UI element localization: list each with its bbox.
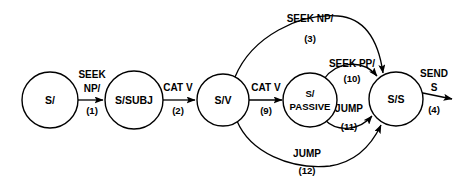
edge-label-10: SEEK PP/ bbox=[329, 58, 375, 69]
state-label-s-passive-line1: S/ bbox=[305, 88, 314, 99]
transition-seek-pp-10: SEEK PP/ (10) bbox=[324, 58, 377, 84]
transition-cat-v-9: CAT V (9) bbox=[249, 82, 282, 116]
state-node-s-s[interactable]: S/S bbox=[369, 72, 423, 126]
edge-label-9: CAT V bbox=[251, 82, 281, 93]
transition-cat-v-2: CAT V (2) bbox=[163, 82, 195, 116]
state-label-s-v: S/V bbox=[215, 94, 232, 106]
edge-label-1-line2: NP/ bbox=[84, 83, 101, 94]
edge-arc-12 bbox=[237, 121, 381, 167]
state-node-s-passive[interactable]: S/ PASSIVE bbox=[283, 73, 337, 127]
edge-number-11: (11) bbox=[341, 121, 358, 132]
edge-number-1: (1) bbox=[86, 105, 98, 116]
state-label-s-subj: S/SUBJ bbox=[115, 94, 153, 106]
edge-number-2: (2) bbox=[172, 105, 184, 116]
atn-diagram-canvas: SEEK NP/ (1) CAT V (2) CAT V (9) SEEK NP… bbox=[0, 0, 458, 187]
edge-number-10: (10) bbox=[343, 73, 360, 84]
edge-number-3: (3) bbox=[304, 33, 316, 44]
transition-jump-12: JUMP (12) bbox=[237, 121, 381, 176]
edge-number-9: (9) bbox=[260, 105, 272, 116]
edge-label-12: JUMP bbox=[293, 148, 321, 159]
state-node-s-v[interactable]: S/V bbox=[197, 74, 249, 126]
edge-label-4-line1: SEND bbox=[420, 68, 448, 79]
edge-label-3: SEEK NP/ bbox=[287, 13, 334, 24]
edge-number-4: (4) bbox=[428, 104, 440, 115]
state-label-s-start: S/ bbox=[45, 94, 55, 106]
state-label-s-passive-line2: PASSIVE bbox=[290, 101, 331, 112]
edge-label-11: JUMP bbox=[335, 103, 363, 114]
state-node-s-start[interactable]: S/ bbox=[22, 72, 78, 128]
state-transition-diagram: SEEK NP/ (1) CAT V (2) CAT V (9) SEEK NP… bbox=[0, 0, 458, 187]
state-label-s-s: S/S bbox=[388, 93, 405, 105]
edge-label-4-line2: S bbox=[431, 82, 438, 93]
transition-send-s-4: SEND S (4) bbox=[418, 68, 452, 115]
edge-label-2: CAT V bbox=[163, 82, 193, 93]
state-node-s-subj[interactable]: S/SUBJ bbox=[105, 71, 163, 129]
transition-seek-np-1: SEEK NP/ (1) bbox=[78, 69, 106, 116]
edge-label-1-line1: SEEK bbox=[78, 69, 106, 80]
edge-number-12: (12) bbox=[298, 165, 315, 176]
